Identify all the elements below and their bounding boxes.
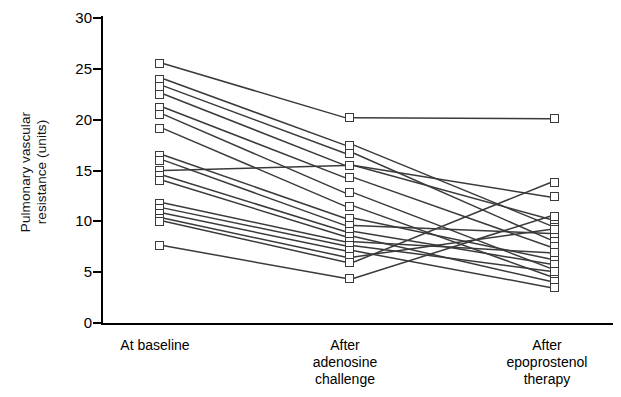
x-axis-label-at-baseline: At baseline <box>60 337 250 354</box>
data-point-marker <box>345 173 354 182</box>
y-axis-tick-10 <box>93 220 101 222</box>
x-axis-label-line: challenge <box>250 371 440 388</box>
data-point-marker <box>550 283 559 292</box>
data-point-marker <box>155 110 164 119</box>
y-axis-tick-labels: 051015202530 <box>48 18 92 323</box>
data-point-marker <box>345 113 354 122</box>
x-axis-label-line: After <box>250 337 440 354</box>
data-point-marker <box>345 161 354 170</box>
y-axis-tick-label-25: 25 <box>52 61 92 76</box>
data-point-marker <box>345 149 354 158</box>
data-point-marker <box>550 248 559 257</box>
data-point-marker <box>345 188 354 197</box>
data-point-marker <box>155 176 164 185</box>
y-axis-tick-label-10: 10 <box>52 213 92 228</box>
data-point-marker <box>550 267 559 276</box>
x-axis-label-line: At baseline <box>60 337 250 354</box>
data-point-marker <box>550 192 559 201</box>
x-axis-label-line: After <box>452 337 621 354</box>
y-axis-tick-25 <box>93 68 101 70</box>
y-axis-tick-5 <box>93 271 101 273</box>
x-axis-label-after-adenosine-challenge: Afteradenosinechallenge <box>250 337 440 388</box>
data-point-marker <box>345 274 354 283</box>
data-point-marker <box>345 202 354 211</box>
y-axis-tick-30 <box>93 17 101 19</box>
x-axis-label-line: adenosine <box>250 354 440 371</box>
data-point-marker <box>345 258 354 267</box>
y-axis-tick-0 <box>93 322 101 324</box>
y-axis-title-line-1: Pulmonary vascular <box>18 112 34 232</box>
x-axis-line <box>101 323 613 325</box>
chart-figure: Pulmonary vascular resistance (units) 05… <box>0 0 621 397</box>
y-axis-tick-label-0: 0 <box>52 315 92 330</box>
data-point-marker <box>550 178 559 187</box>
data-point-marker <box>155 90 164 99</box>
y-axis-tick-label-20: 20 <box>52 112 92 127</box>
x-axis-label-after-epoprostenol-therapy: Afterepoprostenoltherapy <box>452 337 621 388</box>
data-point-marker <box>155 156 164 165</box>
data-point-marker <box>155 217 164 226</box>
data-point-marker <box>155 124 164 133</box>
data-point-marker <box>550 225 559 234</box>
y-axis-tick-label-30: 30 <box>52 10 92 25</box>
data-point-marker <box>155 241 164 250</box>
data-point-marker <box>550 114 559 123</box>
y-axis-tick-15 <box>93 170 101 172</box>
y-axis-tick-20 <box>93 119 101 121</box>
x-axis-label-line: therapy <box>452 371 621 388</box>
data-point-marker <box>155 59 164 68</box>
plot-area <box>101 18 606 323</box>
data-point-marker <box>550 212 559 221</box>
y-axis-tick-label-5: 5 <box>52 264 92 279</box>
x-axis-label-line: epoprostenol <box>452 354 621 371</box>
y-axis-tick-label-15: 15 <box>52 163 92 178</box>
